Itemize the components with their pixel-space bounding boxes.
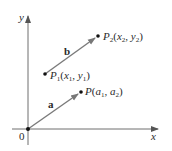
vector-a-label: a — [48, 99, 54, 110]
point-p2-label: P2(x2, y2) — [103, 31, 143, 44]
vector-diagram: y x 0 a b P(a1, a2) P1(x1, y1) P2(x2, y2… — [0, 0, 172, 151]
point-p1-label: P1(x1, y1) — [50, 70, 90, 83]
y-axis-label: y — [19, 12, 24, 23]
vector-b-label: b — [64, 46, 70, 57]
point-p — [79, 90, 83, 94]
point-p-label: P(a1, a2) — [85, 86, 123, 99]
point-p1 — [43, 72, 47, 76]
x-axis-label: x — [151, 131, 156, 142]
point-p-name: P — [85, 85, 92, 97]
origin-label: 0 — [19, 131, 25, 142]
origin-point — [26, 127, 30, 131]
point-p2 — [96, 34, 100, 38]
